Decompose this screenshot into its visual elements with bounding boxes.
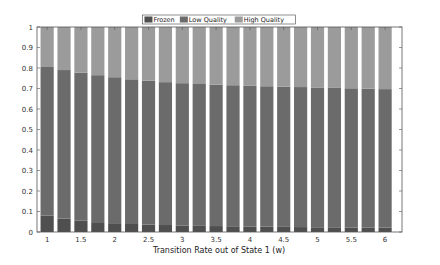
bar-segment-low-quality (328, 88, 341, 227)
y-tick-label: 0.4 (22, 147, 34, 155)
bar-segment-frozen (91, 222, 104, 232)
bar-segment-high-quality (294, 27, 307, 87)
bar-segment-low-quality (379, 89, 392, 228)
y-tick-label: 0 (29, 229, 33, 237)
bar-stack (142, 27, 155, 232)
legend-label: High Quality (244, 16, 284, 24)
y-tick-label: 0.7 (22, 85, 33, 93)
bar-stack (362, 27, 375, 232)
bar-segment-high-quality (108, 27, 121, 77)
bar-stack (243, 27, 256, 232)
y-tick-label: 1 (29, 24, 33, 32)
bar-stack (328, 27, 341, 232)
bar-segment-low-quality (91, 75, 104, 222)
bar-segment-low-quality (176, 83, 189, 225)
bar-stack (57, 27, 70, 232)
bar-segment-low-quality (193, 84, 206, 226)
bar-segment-high-quality (41, 27, 54, 67)
bar-segment-low-quality (345, 88, 358, 227)
bar-stack (345, 27, 358, 232)
bar-stack (91, 27, 104, 232)
bar-segment-low-quality (362, 89, 375, 228)
bar-stack (210, 27, 223, 232)
x-tick-label: 5.5 (346, 236, 357, 244)
bar-segment-high-quality (328, 27, 341, 88)
bar-segment-low-quality (57, 70, 70, 219)
bar-segment-low-quality (210, 85, 223, 226)
bar-segment-low-quality (41, 67, 54, 216)
x-tick-label: 2.5 (143, 236, 154, 244)
x-tick-label: 2 (112, 236, 116, 244)
bar-segment-high-quality (362, 27, 375, 89)
bar-segment-high-quality (176, 27, 189, 83)
bar-segment-high-quality (193, 27, 206, 84)
bar-stack (176, 27, 189, 232)
bar-segment-low-quality (311, 87, 324, 227)
x-tick-label: 6 (383, 236, 388, 244)
bar-stack (74, 27, 87, 232)
y-tick-label: 0.1 (22, 208, 33, 216)
bar-segment-low-quality (142, 81, 155, 225)
legend-swatch (235, 17, 243, 23)
bar-segment-low-quality (294, 87, 307, 227)
bar-stack (41, 27, 54, 232)
bar-stack (311, 27, 324, 232)
y-tick-label: 0.9 (22, 44, 33, 52)
bar-segment-high-quality (379, 27, 392, 89)
bar-stack (108, 27, 121, 232)
bar-segment-frozen (125, 224, 138, 232)
bar-segment-low-quality (125, 79, 138, 224)
bar-segment-high-quality (345, 27, 358, 88)
bar-segment-frozen (362, 227, 375, 232)
bar-stack (159, 27, 172, 232)
bar-segment-low-quality (159, 82, 172, 225)
bar-segment-high-quality (159, 27, 172, 82)
bar-segment-high-quality (210, 27, 223, 85)
bar-segment-frozen (294, 227, 307, 232)
bar-stack (260, 27, 273, 232)
bar-segment-low-quality (277, 87, 290, 227)
bar-segment-frozen (57, 219, 70, 232)
x-tick-label: 4 (248, 236, 253, 244)
legend-swatch (144, 17, 152, 23)
bar-segment-high-quality (57, 27, 70, 70)
x-tick-label: 3 (180, 236, 184, 244)
bar-segment-low-quality (226, 85, 239, 226)
bar-segment-low-quality (108, 77, 121, 223)
bar-segment-high-quality (277, 27, 290, 87)
bar-stack (294, 27, 307, 232)
bar-segment-low-quality (260, 86, 273, 226)
bar-segment-high-quality (74, 27, 87, 73)
stacked-bar-chart: 00.10.20.30.40.50.60.70.80.91 11.522.533… (0, 0, 440, 265)
x-tick-label: 3.5 (211, 236, 222, 244)
bar-segment-high-quality (311, 27, 324, 87)
bar-segment-low-quality (74, 73, 87, 221)
bar-stack (193, 27, 206, 232)
bar-segment-high-quality (243, 27, 256, 86)
bar-stack (125, 27, 138, 232)
bar-segment-low-quality (243, 86, 256, 227)
bar-stack (226, 27, 239, 232)
x-tick-label: 1.5 (75, 236, 86, 244)
y-tick-label: 0.6 (22, 106, 34, 114)
legend-label: Frozen (153, 16, 174, 24)
bars-group (41, 27, 392, 232)
bar-segment-frozen (193, 226, 206, 232)
bar-segment-high-quality (226, 27, 239, 85)
bar-segment-frozen (328, 227, 341, 232)
bar-stack (379, 27, 392, 232)
y-tick-label: 0.5 (22, 126, 33, 134)
y-tick-label: 0.8 (22, 65, 33, 73)
legend: FrozenLow QualityHigh Quality (142, 15, 295, 24)
bar-segment-high-quality (260, 27, 273, 86)
bar-stack (277, 27, 290, 232)
bar-segment-high-quality (142, 27, 155, 81)
bar-segment-frozen (226, 226, 239, 232)
bar-segment-frozen (260, 227, 273, 232)
legend-label: Low Quality (189, 16, 227, 24)
y-tick-label: 0.2 (22, 188, 33, 196)
bar-segment-high-quality (91, 27, 104, 75)
x-axis-label: Transition Rate out of State 1 (w) (152, 246, 285, 255)
bar-segment-high-quality (125, 27, 138, 79)
x-tick-label: 1 (45, 236, 49, 244)
